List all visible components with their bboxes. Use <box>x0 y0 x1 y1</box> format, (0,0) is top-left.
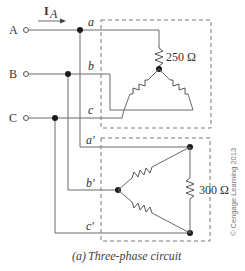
y-load-250: 250 Ω <box>124 45 196 110</box>
node-label-a-prime: a′ <box>86 133 95 147</box>
three-phase-circuit-diagram: I A A B C a b c <box>0 0 245 271</box>
node-label-a: a <box>88 15 94 29</box>
terminal-c <box>24 116 29 121</box>
node-label-b: b <box>88 59 94 73</box>
terminal-b <box>24 72 29 77</box>
current-arrow-ia: I A <box>38 4 66 24</box>
copyright-notice: © Cengage Learning 2013 <box>229 148 238 236</box>
node-label-c-prime: c′ <box>86 219 94 233</box>
junction-c <box>52 115 58 121</box>
junction-a <box>77 27 83 33</box>
junction-b <box>65 71 71 77</box>
terminal-a <box>24 28 29 33</box>
node-label-b-prime: b′ <box>86 176 95 190</box>
current-subscript: A <box>49 7 58 21</box>
terminal-label-b: B <box>9 67 17 81</box>
load1-boundary <box>101 20 211 128</box>
terminal-label-c: C <box>9 111 17 125</box>
terminal-label-a: A <box>9 23 18 37</box>
node-label-c: c <box>88 103 94 117</box>
caption: Three-phase circuit <box>88 249 182 263</box>
current-label: I <box>44 4 49 18</box>
resistance-label-300: 300 Ω <box>199 183 229 197</box>
caption-prefix: (a) <box>72 249 86 263</box>
delta-load-300: 300 Ω <box>115 144 229 236</box>
resistance-label-250: 250 Ω <box>166 50 196 64</box>
